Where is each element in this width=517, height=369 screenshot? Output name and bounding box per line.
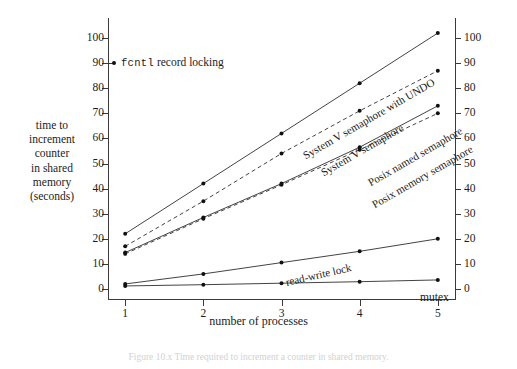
figure-caption: Figure 10.x Time required to increment a…: [0, 352, 517, 362]
data-point-0-2: [280, 131, 284, 135]
y-tick-label-left-40: 40: [93, 183, 105, 195]
y-tick-label-right-60: 60: [464, 132, 476, 144]
y-axis-title-line-3: in shared: [6, 161, 98, 175]
data-point-3-1: [201, 217, 205, 221]
data-point-3-2: [280, 183, 284, 187]
data-point-5-0: [123, 284, 127, 288]
data-point-4-3: [358, 249, 362, 253]
y-tick-label-left-0: 0: [98, 283, 104, 295]
y-axis-title: time toincrementcounterin sharedmemory(s…: [6, 118, 98, 203]
data-point-4-1: [201, 272, 205, 276]
data-point-5-2: [280, 281, 284, 285]
data-point-2-4: [436, 104, 440, 108]
data-point-1-0: [123, 244, 127, 248]
y-axis-title-line-5: (seconds): [6, 189, 98, 203]
data-point-5-3: [358, 280, 362, 284]
figure-container: time toincrementcounterin sharedmemory(s…: [0, 0, 517, 369]
y-tick-label-right-20: 20: [464, 233, 476, 245]
series-label-5: mutex: [420, 292, 449, 304]
data-point-4-2: [280, 261, 284, 265]
data-point-1-1: [201, 199, 205, 203]
y-tick-label-left-70: 70: [93, 107, 105, 119]
y-tick-label-left-60: 60: [93, 132, 105, 144]
x-tick-4: [360, 299, 361, 306]
y-tick-label-left-90: 90: [93, 57, 105, 69]
y-tick-label-right-30: 30: [464, 208, 476, 220]
y-tick-label-right-100: 100: [464, 32, 481, 44]
y-tick-label-right-80: 80: [464, 82, 476, 94]
data-point-3-0: [123, 252, 127, 256]
x-tick-2: [203, 299, 204, 306]
plot-area: 0102030405060708090100010203040506070809…: [108, 18, 456, 300]
y-axis-title-line-0: time to: [6, 118, 98, 132]
y-axis-title-line-4: memory: [6, 175, 98, 189]
y-tick-label-right-40: 40: [464, 183, 476, 195]
data-point-0-3: [358, 81, 362, 85]
data-point-1-2: [280, 151, 284, 155]
y-tick-label-right-50: 50: [464, 158, 476, 170]
y-tick-label-right-70: 70: [464, 107, 476, 119]
x-tick-3: [282, 299, 283, 306]
data-point-0-0: [123, 232, 127, 236]
data-point-0-1: [201, 182, 205, 186]
y-axis-title-line-2: counter: [6, 146, 98, 160]
x-axis-title: number of processes: [0, 314, 517, 329]
data-point-0-4: [436, 31, 440, 35]
data-point-5-4: [436, 278, 440, 282]
y-tick-label-left-50: 50: [93, 158, 105, 170]
y-tick-label-left-20: 20: [93, 233, 105, 245]
y-tick-label-right-10: 10: [464, 258, 476, 270]
data-point-5-1: [201, 283, 205, 287]
y-tick-label-left-100: 100: [87, 32, 104, 44]
y-tick-label-right-90: 90: [464, 57, 476, 69]
data-point-4-4: [436, 237, 440, 241]
y-tick-label-right-0: 0: [464, 283, 470, 295]
y-axis-title-line-1: increment: [6, 132, 98, 146]
y-tick-label-left-80: 80: [93, 82, 105, 94]
data-point-1-3: [358, 109, 362, 113]
x-tick-1: [125, 299, 126, 306]
y-tick-label-left-10: 10: [93, 258, 105, 270]
data-point-3-4: [436, 111, 440, 115]
y-tick-label-left-30: 30: [93, 208, 105, 220]
series-line-1: [125, 71, 438, 247]
data-point-1-4: [436, 69, 440, 73]
